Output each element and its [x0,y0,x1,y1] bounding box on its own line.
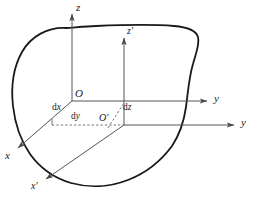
axis-label-y-upper: y [214,93,219,104]
label-dx: dx [52,103,61,113]
x-prime-axis-line [46,125,124,179]
label-dy: dy [71,112,80,122]
diagram-figure: z z' y y x x' O O' dx dy dz [0,0,258,208]
axis-label-x: x [5,150,10,161]
dz-segment [108,103,124,128]
origin-label-O: O [75,88,83,99]
axis-label-z-prime: z' [127,26,133,36]
origin-label-O-prime: O' [99,113,108,123]
axis-label-x-prime: x' [31,181,38,191]
closed-region-outline [12,25,198,186]
axis-label-z: z [76,2,80,13]
x-axis-line [18,101,72,148]
axis-label-y-lower: y [241,117,246,128]
label-dz: dz [123,103,131,113]
